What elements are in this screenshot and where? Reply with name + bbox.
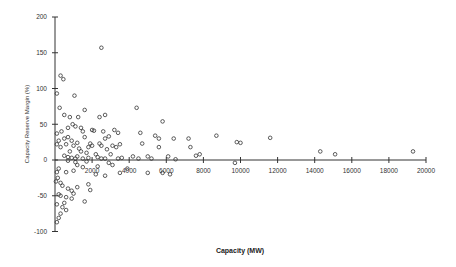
- data-point: [157, 137, 161, 141]
- data-point: [55, 170, 59, 174]
- y-tick-label: 200: [36, 13, 47, 20]
- data-point: [194, 154, 198, 158]
- data-point: [118, 142, 122, 146]
- data-point: [72, 192, 76, 196]
- data-point: [333, 152, 337, 156]
- data-point: [101, 130, 105, 134]
- data-point: [61, 184, 65, 188]
- data-point: [174, 157, 178, 161]
- data-point: [146, 155, 150, 159]
- data-point: [59, 145, 63, 149]
- data-point: [157, 145, 161, 149]
- data-point: [70, 139, 74, 143]
- data-point: [62, 137, 66, 141]
- data-point: [79, 126, 83, 130]
- data-point: [64, 195, 68, 199]
- data-point: [233, 161, 237, 165]
- data-point: [55, 132, 59, 136]
- y-tick-label: 150: [36, 49, 47, 56]
- x-tick-label: 12000: [269, 167, 287, 174]
- data-point: [146, 171, 150, 175]
- data-point: [111, 163, 115, 167]
- data-point: [239, 141, 243, 145]
- data-point: [83, 108, 87, 112]
- y-axis: -100-50050100150200: [34, 13, 58, 235]
- data-point: [198, 152, 202, 156]
- data-point: [153, 134, 157, 138]
- data-point: [113, 128, 117, 132]
- data-point: [62, 113, 66, 117]
- data-point: [66, 135, 70, 139]
- x-tick-label: 18000: [380, 167, 398, 174]
- x-axis: 2000400060008000100001200014000160001800…: [55, 157, 435, 174]
- y-tick-label: 100: [36, 85, 47, 92]
- data-point: [103, 174, 107, 178]
- data-point: [55, 142, 59, 146]
- data-point: [103, 137, 107, 141]
- data-point: [87, 145, 91, 149]
- x-tick-label: 10000: [231, 167, 249, 174]
- data-point: [55, 220, 59, 224]
- x-tick-label: 14000: [306, 167, 324, 174]
- scatter-chart: -100-50050100150200 20004000600080001000…: [0, 0, 456, 267]
- x-tick-label: 8000: [196, 167, 211, 174]
- data-point: [83, 135, 87, 139]
- data-point: [75, 163, 79, 167]
- x-tick-label: 20000: [417, 167, 435, 174]
- data-point: [172, 137, 176, 141]
- data-point: [215, 134, 219, 138]
- data-point: [109, 152, 113, 156]
- data-point: [72, 169, 76, 173]
- data-point: [87, 156, 91, 160]
- data-point: [57, 167, 61, 171]
- data-point: [75, 185, 79, 189]
- data-point: [87, 183, 91, 187]
- data-point: [61, 205, 65, 209]
- data-point: [75, 141, 79, 145]
- data-point: [131, 155, 135, 159]
- data-point: [64, 208, 68, 212]
- data-point: [139, 131, 143, 135]
- data-points: [54, 46, 415, 224]
- data-point: [83, 200, 87, 204]
- data-point: [56, 176, 60, 180]
- data-point: [98, 115, 102, 119]
- data-point: [66, 126, 70, 130]
- data-point: [66, 187, 70, 191]
- data-point: [189, 145, 193, 149]
- data-point: [68, 115, 72, 119]
- data-point: [57, 216, 61, 220]
- data-point: [140, 142, 144, 146]
- data-point: [68, 150, 72, 154]
- data-point: [76, 115, 80, 119]
- x-axis-title: Capacity (MW): [216, 247, 264, 255]
- data-point: [85, 151, 89, 155]
- data-point: [103, 113, 107, 117]
- data-point: [107, 135, 111, 139]
- data-point: [166, 155, 170, 159]
- data-point: [57, 139, 61, 143]
- data-point: [59, 212, 63, 216]
- data-point: [66, 155, 70, 159]
- data-point: [81, 130, 85, 134]
- data-point: [64, 142, 68, 146]
- data-point: [114, 145, 118, 149]
- data-point: [74, 125, 78, 129]
- data-point: [96, 155, 100, 159]
- y-tick-label: -100: [34, 228, 47, 235]
- data-point: [161, 120, 165, 124]
- data-point: [64, 170, 68, 174]
- data-point: [66, 159, 70, 163]
- data-point: [62, 201, 66, 205]
- data-point: [318, 150, 322, 154]
- data-point: [111, 144, 115, 148]
- data-point: [135, 106, 139, 110]
- data-point: [268, 136, 272, 140]
- data-point: [62, 154, 66, 158]
- data-point: [411, 150, 415, 154]
- y-tick-label: -50: [38, 192, 48, 199]
- data-point: [116, 131, 120, 135]
- data-point: [79, 150, 83, 154]
- data-point: [62, 77, 66, 81]
- data-point: [88, 188, 92, 192]
